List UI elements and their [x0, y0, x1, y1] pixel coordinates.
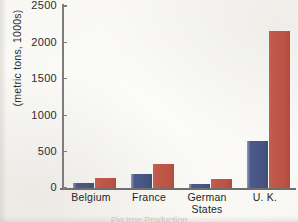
bar-group [178, 6, 236, 188]
y-tick-label-0: 0 [51, 181, 57, 193]
bar-series-blue-0 [73, 183, 94, 188]
bar-series-red-2 [211, 179, 232, 188]
bar-series-red-0 [95, 178, 116, 188]
bar-series-blue-1 [131, 174, 152, 188]
x-category-label-1: France [120, 192, 178, 204]
x-axis-line [60, 188, 296, 190]
x-category-label-2: GermanStates [178, 192, 236, 215]
scan-edge-left [0, 0, 7, 222]
y-tick-label-500: 500 [38, 145, 57, 157]
plot-area: 05001000150020002500 [62, 6, 294, 188]
y-tick-label-2000: 2000 [31, 36, 57, 48]
bar-series-red-1 [153, 164, 174, 188]
y-axis-title: (metric tons, 1000s) [11, 0, 23, 118]
y-tick-label-1500: 1500 [31, 72, 57, 84]
bar-group [62, 6, 120, 188]
bar-series-blue-2 [189, 184, 210, 188]
bar-series-red-3 [269, 31, 290, 188]
y-tick-label-2500: 2500 [31, 0, 57, 11]
x-category-label-line: Belgium [62, 192, 120, 204]
bar-series-blue-3 [247, 141, 268, 188]
bar-group [120, 6, 178, 188]
x-category-label-line: States [178, 204, 236, 216]
y-tick-label-1000: 1000 [31, 109, 57, 121]
x-category-label-line: U. K. [236, 192, 294, 204]
x-category-label-3: U. K. [236, 192, 294, 204]
scan-edge-bottom [0, 216, 298, 222]
x-category-label-line: France [120, 192, 178, 204]
x-category-label-line: German [178, 192, 236, 204]
x-category-label-0: Belgium [62, 192, 120, 204]
chart-canvas: (metric tons, 1000s) 0500100015002000250… [0, 0, 298, 222]
bar-group [236, 6, 294, 188]
